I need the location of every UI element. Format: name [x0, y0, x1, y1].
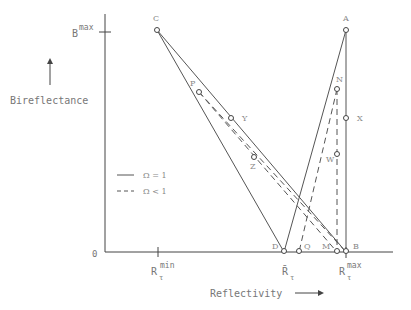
rbar-sub: τ [290, 274, 294, 282]
rmax-label: R [339, 266, 346, 277]
rmin-sup: min [160, 261, 175, 270]
rbar-label: R̄ [282, 265, 289, 277]
label-X: X [357, 114, 363, 123]
solid-lines [157, 30, 346, 252]
point-M [335, 249, 340, 254]
legend-solid-label: Ω = 1 [143, 171, 167, 180]
point-P [197, 90, 202, 95]
label-Y: Y [241, 114, 248, 123]
point-B [344, 249, 349, 254]
label-A: A [342, 14, 349, 23]
bmax-label: B [72, 28, 78, 39]
label-C: C [153, 14, 159, 23]
label-W: W [326, 155, 335, 164]
y-arrowhead-icon [47, 58, 53, 64]
point-X [344, 116, 349, 121]
point-N [335, 87, 340, 92]
point-Q [297, 249, 302, 254]
point-W [335, 152, 340, 157]
label-Q: Q [304, 242, 311, 251]
label-Z: Z [250, 162, 256, 171]
rmax-sup: max [347, 261, 362, 270]
rmin-sub: τ [159, 274, 163, 282]
dashed-lines [199, 89, 346, 252]
label-D: D [272, 242, 278, 251]
legend-dashed-label: Ω < 1 [143, 187, 167, 196]
label-P: P [190, 79, 196, 88]
label-B: B [353, 242, 359, 251]
point-Y [229, 116, 234, 121]
point-A [344, 28, 349, 33]
bmax-sup: max [79, 23, 94, 32]
point-D [282, 249, 287, 254]
zero-label: 0 [92, 249, 97, 259]
label-M: M [322, 242, 330, 251]
rmax-sub: τ [347, 274, 351, 282]
y-axis-label: Bireflectance [10, 95, 88, 106]
rmin-label: R [151, 266, 158, 277]
point-Z [252, 155, 257, 160]
x-axis-label: Reflectivity [210, 288, 282, 299]
label-N: N [336, 75, 343, 84]
x-arrowhead-icon [318, 290, 324, 296]
bireflectance-diagram: C A P Y Z N X W D Q M B B max 0 Bireflec… [0, 0, 411, 310]
point-C [155, 28, 160, 33]
